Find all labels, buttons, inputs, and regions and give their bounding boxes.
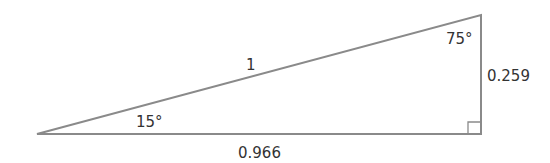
angle-75-label: 75° bbox=[446, 30, 473, 48]
angle-15-label: 15° bbox=[136, 113, 163, 131]
hypotenuse-label: 1 bbox=[246, 56, 256, 74]
right-triangle-diagram: 1 0.966 0.259 15° 75° bbox=[0, 0, 550, 163]
adjacent-side-label: 0.966 bbox=[238, 144, 281, 162]
opposite-side-label: 0.259 bbox=[487, 67, 530, 85]
right-angle-marker bbox=[468, 122, 481, 134]
triangle-shape bbox=[37, 15, 481, 134]
